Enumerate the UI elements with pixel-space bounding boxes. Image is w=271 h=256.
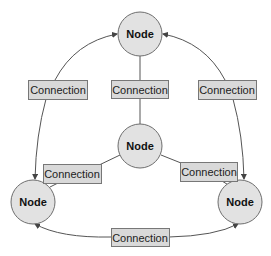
edge-bottom-to-left [35,224,111,237]
connection-label: Connection [112,232,168,244]
connection-bottom[interactable]: Connection [112,229,170,247]
connection-center-top[interactable]: Connection [112,81,169,99]
connection-label: Connection [44,168,100,180]
edge-right-to-top [163,34,225,80]
node-label: Node [19,196,47,208]
connection-center-left[interactable]: Connection [44,165,102,184]
connection-label: Connection [181,166,237,178]
node-right[interactable]: Node [218,180,262,224]
connection-left-top[interactable]: Connection [29,81,88,100]
connection-label: Connection [199,84,255,96]
connection-label: Connection [112,84,168,96]
edge-bottom-to-right [169,224,238,237]
connection-right-top[interactable]: Connection [199,81,257,100]
connection-label: Connection [30,84,86,96]
node-left[interactable]: Node [11,180,55,224]
connection-center-right[interactable]: Connection [181,163,238,182]
node-label: Node [126,140,154,152]
edge-left-to-top [55,34,117,80]
node-label: Node [226,196,254,208]
diagram-canvas: Node Node Node Node Connection Connectio… [0,0,271,256]
node-center[interactable]: Node [118,124,162,168]
diagram-svg: Node Node Node Node Connection Connectio… [0,0,271,256]
node-label: Node [126,28,154,40]
node-top[interactable]: Node [118,12,162,56]
